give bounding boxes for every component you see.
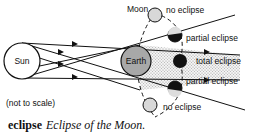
figure-caption: eclipseEclipse of the Moon. [8, 118, 145, 133]
sun-label: Sun [14, 56, 29, 66]
scale-note: (not to scale) [6, 98, 55, 108]
lunar-eclipse-diagram: Sun Earth Moon no eclipse partial eclips… [0, 0, 254, 137]
no-eclipse-top-label: no eclipse [166, 5, 205, 15]
moon-no-eclipse-top [148, 8, 162, 22]
caption-text: Eclipse of the Moon. [46, 118, 145, 132]
partial-eclipse-top-label: partial eclipse [186, 33, 238, 43]
no-eclipse-bottom-label: no eclipse [163, 102, 202, 112]
moon-label: Moon [127, 4, 149, 14]
total-eclipse-label: total eclipse [196, 56, 241, 66]
partial-eclipse-bottom-label: partial eclipse [186, 76, 238, 86]
earth-label: Earth [126, 56, 147, 66]
moon-total-eclipse [173, 54, 187, 68]
moon-no-eclipse-bottom [143, 98, 157, 112]
caption-term: eclipse [8, 118, 42, 132]
